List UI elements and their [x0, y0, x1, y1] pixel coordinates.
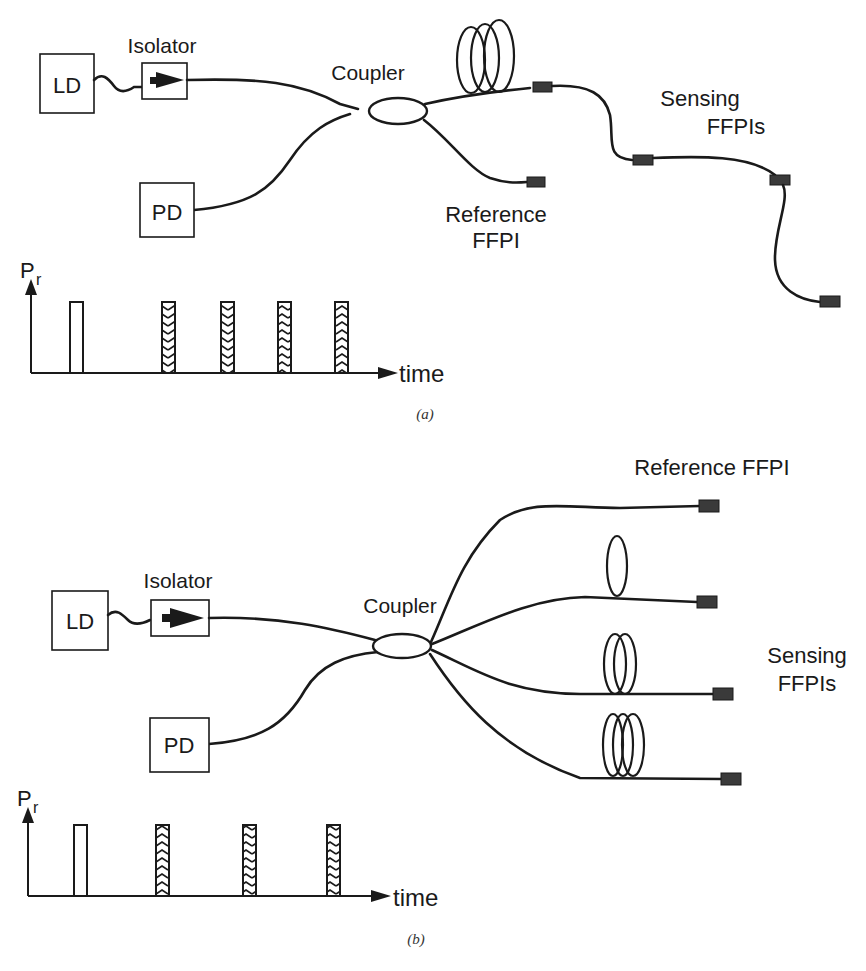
sensing-label-2: FFPIs: [707, 114, 766, 139]
reference-label-2: FFPI: [472, 228, 520, 253]
laser-diode-a: LD: [40, 54, 94, 113]
sensing-ffpi-a-4: [820, 296, 840, 307]
sensing-label-2: FFPIs: [778, 671, 837, 696]
pulse-plot-b: P r time: [17, 786, 438, 911]
reference-ffpi-b: [699, 500, 719, 512]
laser-diode-b: LD: [52, 591, 108, 650]
sensing-pulse: [156, 825, 169, 896]
x-axis-label: time: [399, 360, 444, 387]
sensing-ffpi-a-2: [633, 155, 653, 165]
laser-diode-label: LD: [66, 609, 94, 634]
figure-a: LD Isolator Coupler PD Reference FFPI: [20, 20, 840, 423]
sensing-ffpi-a-3: [770, 175, 790, 185]
series-fiber-3: [775, 185, 820, 302]
sensing-ffpi-b-1: [697, 596, 717, 608]
fiber-coil-a: [457, 20, 514, 93]
isolator-label: Isolator: [128, 34, 197, 57]
coupler-label: Coupler: [363, 594, 437, 617]
x-axis-arrow-icon: [371, 890, 391, 902]
input-fiber: [209, 618, 375, 640]
sensing-pulse: [162, 302, 175, 373]
coupler-label: Coupler: [331, 61, 405, 84]
reference-pulse: [74, 825, 87, 896]
sensing-pulse: [278, 302, 291, 373]
laser-diode-label: LD: [53, 73, 81, 98]
figure-b: LD Isolator Coupler PD Reference FFPI: [17, 455, 847, 948]
sensing-ffpi-a-1: [533, 82, 552, 92]
reference-label: Reference FFPI: [634, 455, 789, 480]
sensing-ffpi-b-3: [721, 773, 741, 785]
series-fiber-2: [653, 157, 775, 175]
sensing-pulse: [221, 302, 234, 373]
reference-pulse: [70, 302, 83, 373]
sensing-pulse: [335, 302, 348, 373]
reference-fiber: [431, 506, 700, 642]
isolator-label: Isolator: [144, 569, 213, 592]
sensing-fiber-1: [432, 597, 697, 644]
pulse-plot-a: P r time: [20, 258, 444, 387]
y-axis-label: P: [20, 258, 35, 283]
photodetector-a: PD: [140, 183, 194, 237]
pigtail-fiber: [94, 76, 142, 91]
isolator-a: [142, 63, 187, 99]
coupler-b: [373, 634, 431, 658]
detector-fiber: [209, 652, 378, 744]
sensing-fiber-3: [430, 654, 722, 779]
caption-b: (b): [407, 931, 425, 948]
x-axis-arrow-icon: [378, 367, 398, 379]
sensing-ffpi-b-2: [713, 688, 733, 700]
ffpi-multiplexing-diagram: LD Isolator Coupler PD Reference FFPI: [0, 0, 866, 971]
photodetector-label: PD: [164, 733, 195, 758]
reference-ffpi-a: [527, 177, 545, 187]
sensing-pulse: [327, 825, 340, 896]
detector-fiber: [194, 114, 350, 210]
sensing-pulse: [243, 825, 256, 896]
isolator-b: [151, 600, 209, 636]
fiber-coil-1: [607, 536, 627, 596]
sensing-fiber-2: [432, 650, 713, 694]
x-axis-label: time: [393, 884, 438, 911]
coupler-a: [369, 98, 427, 124]
reference-label-1: Reference: [445, 202, 547, 227]
fiber-coil-2: [604, 634, 636, 694]
caption-a: (a): [416, 406, 434, 423]
y-axis-sub: r: [33, 799, 39, 816]
sensing-label-1: Sensing: [660, 86, 740, 111]
pigtail-fiber: [108, 612, 150, 624]
y-axis-sub: r: [36, 271, 42, 288]
reference-fiber: [424, 120, 527, 183]
fiber-coil-3: [603, 714, 644, 776]
photodetector-b: PD: [150, 718, 209, 772]
sensing-label-1: Sensing: [767, 643, 847, 668]
y-axis-label: P: [17, 786, 32, 811]
series-fiber-1: [552, 86, 632, 160]
photodetector-label: PD: [152, 200, 183, 225]
